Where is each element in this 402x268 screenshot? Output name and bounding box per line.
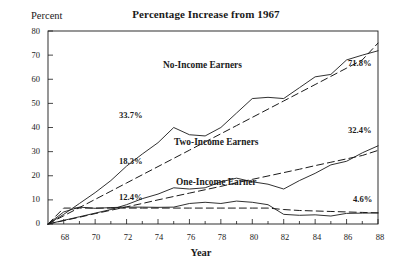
series-line-two-income-earners — [48, 146, 378, 224]
plot-frame — [48, 31, 378, 224]
axis-ticks — [48, 31, 378, 224]
data-series-group — [48, 43, 378, 224]
series-line-two-income-earners-trend — [48, 150, 378, 224]
series-line-no-income-earners-trend — [48, 43, 378, 224]
plot-area — [0, 0, 402, 268]
chart-figure: Percentage Increase from 1967 Percent Ye… — [0, 0, 402, 268]
